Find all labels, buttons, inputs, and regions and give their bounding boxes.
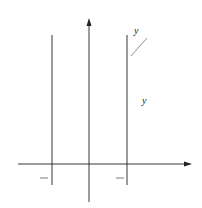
y-axis-arrow-icon [87, 18, 92, 26]
tan-curve-label: y [141, 95, 147, 106]
sec-label-leader [131, 38, 147, 56]
graph: y y [0, 0, 202, 208]
sec-curve-label: y [133, 25, 139, 36]
x-axis-arrow-icon [184, 162, 192, 167]
